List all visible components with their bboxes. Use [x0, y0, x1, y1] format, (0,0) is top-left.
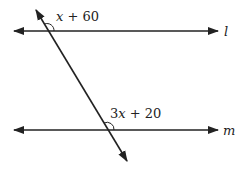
diagram-canvas: x + 60 3x + 20 l m: [0, 0, 244, 177]
angle-label-l: x + 60: [56, 9, 99, 24]
angle-label-m: 3x + 20: [110, 106, 161, 121]
transversal-line: [36, 10, 127, 161]
line-label-m: m: [223, 123, 235, 138]
line-label-l: l: [224, 24, 228, 39]
